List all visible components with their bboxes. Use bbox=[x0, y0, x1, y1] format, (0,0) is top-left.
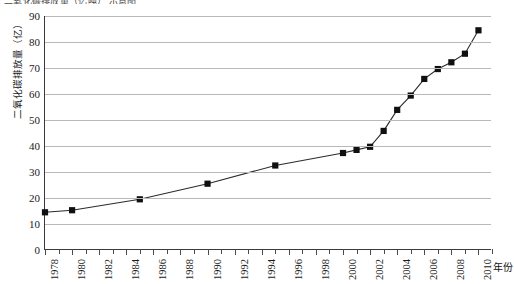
x-axis-tick-labels: 1978198019821984198619881990199219941996… bbox=[44, 250, 514, 284]
series-co2-emissions bbox=[45, 16, 492, 250]
data-point-marker bbox=[421, 76, 427, 82]
series-line bbox=[45, 30, 478, 212]
x-axis-title: 年份 bbox=[493, 259, 513, 274]
gridline-horizontal bbox=[45, 198, 491, 199]
y-tick-label: 30 bbox=[10, 167, 40, 177]
data-point-marker bbox=[394, 107, 400, 113]
plot-area bbox=[44, 16, 491, 250]
data-point-marker bbox=[353, 147, 359, 153]
y-tick-label: 50 bbox=[10, 115, 40, 125]
gridline-horizontal bbox=[45, 146, 491, 147]
data-point-marker bbox=[475, 27, 481, 33]
y-tick-label: 70 bbox=[10, 63, 40, 73]
gridline-horizontal bbox=[45, 68, 491, 69]
x-tick-label: 1980 bbox=[76, 246, 87, 280]
x-tick-label: 1982 bbox=[103, 246, 114, 280]
data-point-marker bbox=[272, 162, 278, 168]
x-tick-label: 2000 bbox=[347, 246, 358, 280]
y-tick-label: 20 bbox=[10, 193, 40, 203]
y-tick-label: 90 bbox=[10, 11, 40, 21]
x-tick-label: 1990 bbox=[212, 246, 223, 280]
y-axis-tick-labels: 0102030405060708090 bbox=[8, 0, 40, 284]
x-tick-label: 1984 bbox=[130, 246, 141, 280]
data-point-marker bbox=[435, 66, 441, 72]
gridline-horizontal bbox=[45, 172, 491, 173]
data-point-marker bbox=[448, 59, 454, 65]
x-tick-label: 1996 bbox=[293, 246, 304, 280]
x-tick-label: 1994 bbox=[266, 246, 277, 280]
data-point-marker bbox=[69, 207, 75, 213]
y-tick-label: 10 bbox=[10, 219, 40, 229]
x-tick-label: 1978 bbox=[49, 246, 60, 280]
data-point-marker bbox=[340, 150, 346, 156]
gridline-horizontal bbox=[45, 16, 491, 17]
x-tick-label: 2010 bbox=[482, 246, 493, 280]
x-tick-label: 2006 bbox=[428, 246, 439, 280]
data-point-marker bbox=[42, 209, 48, 215]
gridline-horizontal bbox=[45, 224, 491, 225]
clipped-header-text: 二氧化碳排放量（亿吨） 示意图 bbox=[4, 0, 304, 4]
y-tick-label: 60 bbox=[10, 89, 40, 99]
gridline-horizontal bbox=[45, 120, 491, 121]
x-tick-label: 2004 bbox=[401, 246, 412, 280]
x-tick-label: 2002 bbox=[374, 246, 385, 280]
y-tick-label: 80 bbox=[10, 37, 40, 47]
gridline-horizontal bbox=[45, 94, 491, 95]
x-tick-label: 1998 bbox=[320, 246, 331, 280]
data-point-marker bbox=[462, 51, 468, 57]
data-point-marker bbox=[381, 128, 387, 134]
data-point-marker bbox=[204, 181, 210, 187]
y-tick-label: 40 bbox=[10, 141, 40, 151]
y-tick-label: 0 bbox=[10, 245, 40, 255]
x-tick-label: 1988 bbox=[184, 246, 195, 280]
x-tick-label: 1986 bbox=[157, 246, 168, 280]
x-tick-label: 1992 bbox=[239, 246, 250, 280]
gridline-horizontal bbox=[45, 42, 491, 43]
x-tick-label: 2008 bbox=[455, 246, 466, 280]
